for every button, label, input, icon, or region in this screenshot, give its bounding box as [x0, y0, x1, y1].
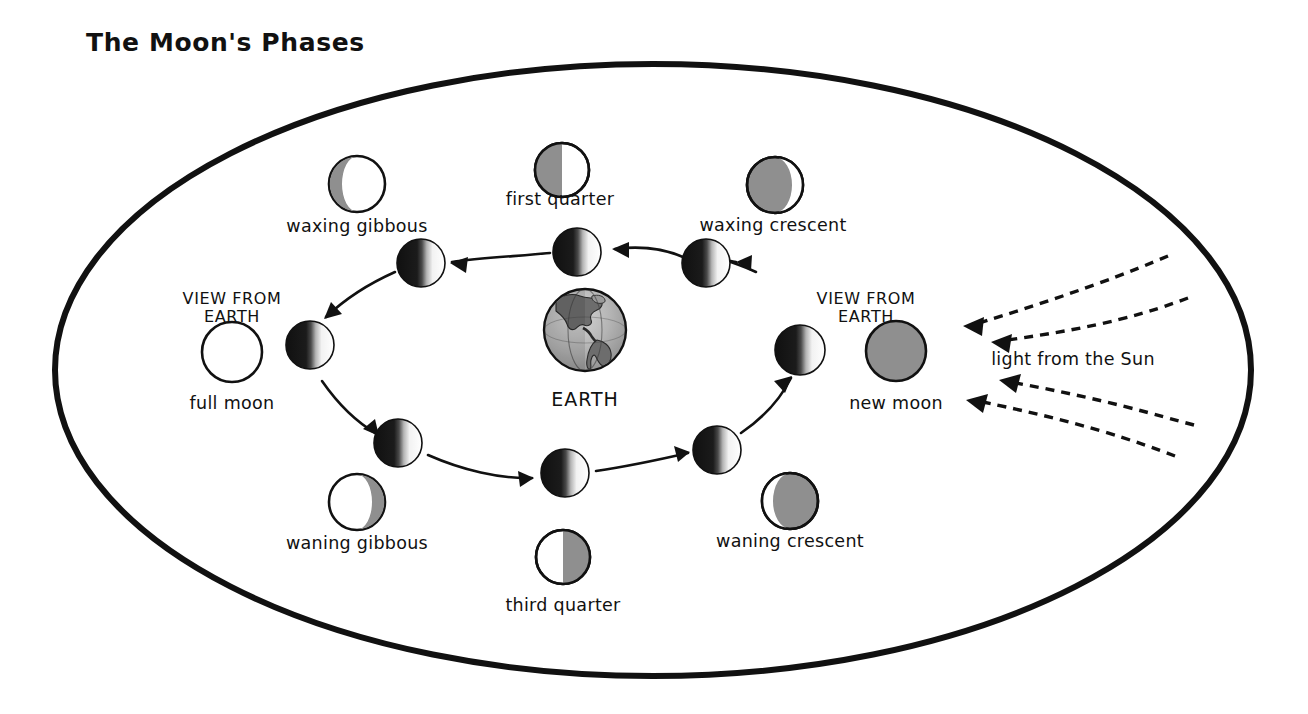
view-from-earth-right-line2: EARTH [838, 307, 894, 326]
orbit-moons [286, 228, 825, 497]
phase-full-moon: full moon [190, 322, 275, 413]
phase-waxing-gibbous: waxing gibbous [286, 156, 427, 236]
orbit-arrow-6 [428, 455, 532, 478]
phase-waxing-crescent: waxing crescent [699, 157, 846, 235]
orbit-moon-full [286, 321, 334, 369]
full-moon-disc [202, 322, 262, 382]
orbit-moon-waxing-gibbous [397, 239, 445, 287]
waxing-crescent-label: waxing crescent [699, 215, 846, 235]
arrowhead-left-2 [612, 242, 629, 258]
new-moon-disc [866, 321, 926, 381]
sunlight-ray-4 [978, 401, 1175, 456]
sunlight-arrowhead-3 [999, 374, 1021, 393]
third-quarter-label: third quarter [505, 595, 621, 615]
first-quarter-label: first quarter [506, 189, 615, 209]
moon-phases-diagram: EARTH waxing gibbous first quarter [0, 0, 1308, 714]
orbit-moon-waning-gibbous [374, 419, 422, 467]
waning-crescent-label: waning crescent [716, 531, 864, 551]
arrowhead-left-1 [736, 255, 752, 271]
orbit-moon-waning-crescent [693, 426, 741, 474]
arrowhead-up-right [774, 376, 792, 393]
arrowhead-right-2 [674, 446, 690, 462]
earth-label: EARTH [551, 388, 619, 410]
orbit-moon-first-quarter [553, 228, 601, 276]
orbit-arrow-7 [596, 453, 688, 471]
view-from-earth-right-line1: VIEW FROM [817, 289, 916, 308]
view-from-earth-left: VIEW FROM EARTH [183, 289, 282, 326]
waning-gibbous-label: waning gibbous [286, 533, 428, 553]
sunlight-ray-2 [1000, 298, 1188, 341]
phase-waning-gibbous: waning gibbous [286, 474, 428, 553]
orbit-moon-waxing-crescent [682, 239, 730, 287]
earth-shading [544, 289, 585, 371]
sunlight-ray-3 [1005, 381, 1194, 425]
third-quarter-shadow [563, 528, 592, 586]
arrowhead-right-1 [518, 471, 534, 487]
view-from-earth-left-line1: VIEW FROM [183, 289, 282, 308]
diagram-canvas: The Moon's Phases [0, 0, 1308, 714]
view-from-earth-left-line2: EARTH [204, 307, 260, 326]
new-moon-label: new moon [849, 393, 943, 413]
sunlight-label: light from the Sun [991, 349, 1155, 369]
phase-new-moon: new moon [849, 321, 943, 413]
orbit-moon-third-quarter [541, 449, 589, 497]
sunlight-arrowhead-1 [963, 317, 984, 336]
phase-third-quarter: third quarter [505, 528, 621, 615]
phase-waning-crescent: waning crescent [716, 473, 864, 551]
earth-globe: EARTH [544, 289, 626, 410]
phase-first-quarter: first quarter [506, 141, 615, 209]
sunlight-arrowhead-4 [966, 394, 988, 413]
orbit-moon-new [775, 325, 825, 375]
full-moon-label: full moon [190, 393, 275, 413]
arrowhead-left-3 [450, 257, 468, 273]
waxing-gibbous-label: waxing gibbous [286, 216, 427, 236]
